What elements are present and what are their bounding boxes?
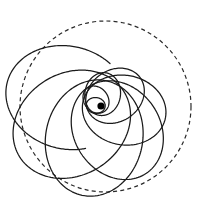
orbit-diagram (0, 0, 203, 212)
focus-layer (97, 102, 104, 109)
central-focus-point (97, 102, 104, 109)
orbit-figure-container (0, 0, 203, 212)
orbit-paths-layer (6, 46, 166, 197)
